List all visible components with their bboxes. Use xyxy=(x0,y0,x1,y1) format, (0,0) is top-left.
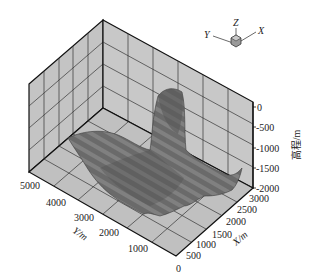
z-axis-label: 高程/m xyxy=(290,130,302,161)
x-tick-label: 0 xyxy=(176,263,181,274)
z-tick-label: -500 xyxy=(256,122,274,133)
y-tick-label: 3000 xyxy=(74,212,94,223)
x-tick-label: 2500 xyxy=(237,204,257,215)
y-tick-label: 2000 xyxy=(99,227,119,238)
x-tick-label: 1500 xyxy=(212,229,232,240)
z-tick-label: -1500 xyxy=(256,163,279,174)
x-tick-label: 3000 xyxy=(249,193,269,204)
z-tick-label: 0 xyxy=(257,102,262,113)
x-tick-label: 1000 xyxy=(196,239,216,250)
y-tick-label: 1000 xyxy=(128,243,148,254)
x-tick-label: 500 xyxy=(186,250,201,261)
z-tick-label: -1000 xyxy=(256,143,279,154)
y-tick-label: 5000 xyxy=(20,180,40,191)
x-axis-label: X/m xyxy=(229,229,249,248)
triad-z-label: Z xyxy=(233,17,239,28)
y-tick-label: 4000 xyxy=(46,197,66,208)
triad-y-label: Y xyxy=(204,29,211,40)
y-axis-label: Y/m xyxy=(71,225,90,243)
surface-plot: 0 -500 -1000 -1500 -2000 高程/m 0 500 1000… xyxy=(0,0,309,277)
axis-triad: Z Y X xyxy=(204,17,265,47)
triad-x-label: X xyxy=(257,25,265,36)
x-tick-label: 2000 xyxy=(226,216,246,227)
z-axis: 0 -500 -1000 -1500 -2000 高程/m xyxy=(253,102,302,194)
